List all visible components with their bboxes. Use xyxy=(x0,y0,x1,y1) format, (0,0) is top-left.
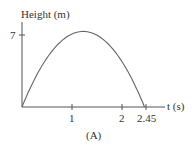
y-axis-label: Height (m) xyxy=(21,9,70,20)
x-axis-label: t (s) xyxy=(167,101,184,112)
chart-plot xyxy=(0,0,193,145)
height-curve xyxy=(22,31,145,107)
x-tick-label-1: 1 xyxy=(69,113,75,124)
x-tick-label-2: 2 xyxy=(119,113,125,124)
chart-caption: (A) xyxy=(86,130,101,141)
x-tick-label-245: 2.45 xyxy=(137,113,156,124)
y-tick-label-7: 7 xyxy=(10,30,16,41)
